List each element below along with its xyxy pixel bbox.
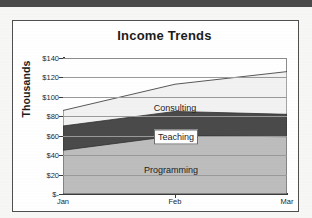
y-tick-label: $80 — [25, 112, 59, 121]
series-label-consulting: Consulting — [154, 103, 197, 113]
gridline — [63, 116, 287, 117]
series-label-teaching: Teaching — [154, 130, 198, 145]
series-label-programming: Programming — [144, 165, 198, 175]
y-axis-tick-labels: $140$120$100$80$60$40$20$- — [23, 21, 59, 218]
x-tick-mark — [175, 195, 176, 198]
y-tick-label: $100 — [25, 92, 59, 101]
y-tick-label: $60 — [25, 131, 59, 140]
chart-object-frame[interactable]: Income Trends Thousands $140$120$100$80$… — [12, 20, 299, 212]
y-tick-label: $- — [25, 190, 59, 199]
y-tick-label: $20 — [25, 170, 59, 179]
gridline — [63, 97, 287, 98]
scan-edge-band — [0, 0, 312, 7]
y-tick-label: $140 — [25, 54, 59, 63]
x-tick-label: Feb — [169, 197, 182, 206]
page-background: Income Trends Thousands $140$120$100$80$… — [0, 7, 312, 218]
gridline — [63, 77, 287, 78]
gridline — [63, 155, 287, 156]
y-tick-label: $120 — [25, 73, 59, 82]
y-tick-label: $40 — [25, 151, 59, 160]
plot-area: ConsultingTeachingProgramming — [63, 58, 287, 194]
x-tick-label: Jan — [57, 197, 69, 206]
x-tick-label: Mar — [281, 197, 294, 206]
